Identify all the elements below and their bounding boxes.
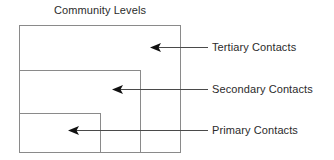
tertiary-leader-line	[150, 43, 208, 52]
label-secondary-contacts: Secondary Contacts	[212, 83, 313, 95]
primary-contacts-box	[20, 114, 101, 153]
primary-leader-line	[68, 126, 208, 135]
secondary-contacts-box	[20, 71, 141, 153]
label-primary-contacts: Primary Contacts	[212, 124, 298, 136]
label-tertiary-contacts: Tertiary Contacts	[212, 41, 296, 53]
secondary-leader-line	[112, 85, 208, 94]
community-levels-diagram: Community Levels Tertiary Contacts Secon…	[0, 0, 334, 160]
diagram-graphics	[0, 0, 334, 160]
